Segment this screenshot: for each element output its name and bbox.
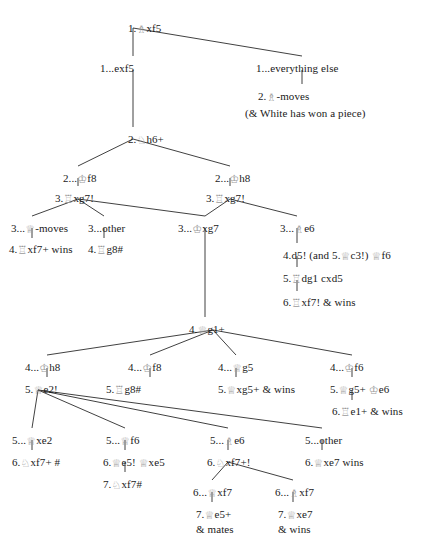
chess-piece-glyph: ♕: [197, 324, 207, 337]
move-node: 6.♕e5! ♕xe5: [103, 456, 165, 469]
move-node: 4...♕g5: [218, 361, 253, 374]
move-node: 5.♕e2!: [25, 383, 58, 396]
chess-piece-glyph: ♕: [204, 509, 214, 522]
chess-piece-glyph: ♖: [63, 193, 73, 206]
tree-edges-layer: [0, 0, 441, 559]
move-node: 4.d5! (and 5.♕c3!) ♕f6: [283, 249, 391, 262]
chess-piece-glyph: ♕: [120, 435, 130, 448]
chess-piece-glyph: ♘: [215, 457, 225, 470]
chess-piece-glyph: ♗: [136, 23, 146, 36]
chess-piece-glyph: ♗: [294, 223, 304, 236]
chess-piece-glyph: ♕: [33, 384, 43, 397]
chess-piece-glyph: ♕: [341, 250, 351, 263]
move-node: 4.♕g1+: [189, 323, 225, 336]
move-node: 5.♖g8#: [106, 383, 141, 396]
move-node: 6...♕xf7: [193, 486, 232, 499]
move-node: 1.♗xf5: [128, 22, 161, 35]
move-node: 2...♔f8: [63, 172, 97, 185]
chess-piece-glyph: ♕: [26, 435, 36, 448]
move-node: 4...♔f6: [330, 361, 364, 374]
move-node: (& White has won a piece): [245, 107, 366, 120]
move-node: 7.♕e5+: [196, 508, 231, 521]
move-node: 2.♗-moves: [258, 90, 309, 103]
chess-piece-glyph: ♕: [232, 362, 242, 375]
chess-piece-glyph: ♖: [291, 273, 301, 286]
move-node: 6.♘xf7+!: [207, 456, 250, 469]
move-node: 5...♕xe2: [12, 434, 52, 447]
chess-piece-glyph: ♔: [39, 362, 49, 375]
move-node: & mates: [196, 523, 234, 536]
chess-piece-glyph: ♕: [111, 457, 121, 470]
move-node: 4...♔f8: [128, 361, 162, 374]
move-node: 5.♖dg1 cxd5: [283, 272, 343, 285]
chess-piece-glyph: ♔: [369, 384, 379, 397]
move-node: 7.♕xe7: [278, 508, 313, 521]
move-node: 1...exf5: [100, 62, 134, 75]
chess-piece-glyph: ♕: [226, 384, 236, 397]
move-node: 2.♘h6+: [128, 133, 164, 146]
chess-piece-glyph: ♕: [25, 223, 35, 236]
move-node: 7.♘xf7#: [103, 478, 142, 491]
chess-piece-glyph: ♕: [139, 457, 149, 470]
move-node: 3...♕-moves: [11, 222, 68, 235]
move-node: 4...♔h8: [25, 361, 60, 374]
chess-piece-glyph: ♔: [77, 173, 87, 186]
move-node: 5...♗e6: [210, 434, 245, 447]
move-node: 3...♗e6: [280, 222, 315, 235]
chess-piece-glyph: ♖: [291, 297, 301, 310]
move-node: 5...other: [305, 434, 342, 447]
chess-piece-glyph: ♖: [96, 244, 106, 257]
move-node: 3.♖xg7!: [55, 192, 94, 205]
tree-edge: [78, 199, 205, 216]
tree-edge: [78, 139, 133, 166]
move-node: 6.♘xf7+ #: [12, 456, 60, 469]
chess-piece-glyph: ♕: [207, 487, 217, 500]
chess-piece-glyph: ♖: [340, 406, 350, 419]
chess-piece-glyph: ♖: [114, 384, 124, 397]
move-node: 6.♕xe7 wins: [305, 456, 364, 469]
move-node: 1...everything else: [256, 62, 339, 75]
chess-piece-glyph: ♔: [229, 173, 239, 186]
chess-piece-glyph: ♔: [344, 362, 354, 375]
move-node: 6.♖e1+ & wins: [332, 405, 403, 418]
move-node: 5.♕g5+ ♔e6: [330, 383, 389, 396]
chess-variation-tree: 1.♗xf51...exf51...everything else2.♗-mov…: [0, 0, 441, 559]
chess-piece-glyph: ♘: [111, 479, 121, 492]
move-node: 3...♔xg7: [178, 222, 219, 235]
chess-piece-glyph: ♔: [142, 362, 152, 375]
move-node: 6...♗xf7: [275, 486, 314, 499]
move-node: 3.♖xg7!: [206, 192, 245, 205]
chess-piece-glyph: ♕: [313, 457, 323, 470]
chess-piece-glyph: ♘: [136, 134, 146, 147]
chess-piece-glyph: ♕: [286, 509, 296, 522]
chess-piece-glyph: ♕: [371, 250, 381, 263]
move-node: 6.♖xf7! & wins: [283, 296, 356, 309]
chess-piece-glyph: ♖: [214, 193, 224, 206]
chess-piece-glyph: ♖: [17, 244, 27, 257]
chess-piece-glyph: ♘: [20, 457, 30, 470]
move-node: 5...♕f6: [106, 434, 140, 447]
move-node: 5.♕xg5+ & wins: [218, 383, 295, 396]
move-node: 2...♔h8: [215, 172, 250, 185]
chess-piece-glyph: ♕: [338, 384, 348, 397]
move-node: 3...other: [88, 222, 125, 235]
chess-piece-glyph: ♗: [289, 487, 299, 500]
move-node: & wins: [278, 523, 311, 536]
chess-piece-glyph: ♔: [192, 223, 202, 236]
tree-edge: [213, 330, 352, 355]
chess-piece-glyph: ♗: [266, 91, 276, 104]
move-node: 4.♖xf7+ wins: [9, 243, 73, 256]
chess-piece-glyph: ♗: [224, 435, 234, 448]
move-node: 4.♖g8#: [88, 243, 123, 256]
